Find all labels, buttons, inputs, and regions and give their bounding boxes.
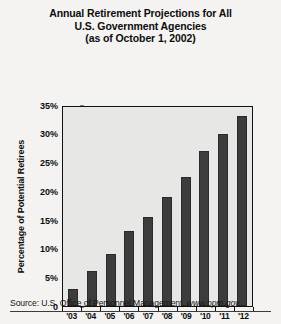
- bar-slot: [101, 107, 120, 306]
- bar-slot: [195, 107, 214, 306]
- chart-plot-region: Percentage of Potential Retirees 05%10%1…: [0, 49, 281, 324]
- x-axis-tick-label: '05: [100, 311, 119, 321]
- bar-09: [181, 177, 191, 306]
- source-url: www.opm.gov.: [187, 298, 241, 308]
- chart-figure: Annual Retirement Projections for All U.…: [0, 0, 281, 324]
- source-text: Source: U.S. Office of Personnel Managem…: [10, 298, 271, 308]
- chart-title-line-1: Annual Retirement Projections for All: [14, 7, 267, 20]
- y-axis-tick-labels: 05%10%15%20%25%30%35%: [22, 49, 58, 313]
- x-axis-tick-label: '10: [196, 311, 215, 321]
- source-prefix: Source: U.S. Office of Personnel Managem…: [10, 298, 187, 308]
- bar-08: [162, 197, 172, 306]
- bar-slot: [139, 107, 158, 306]
- bottom-divider: [10, 311, 271, 312]
- bar-slot: [158, 107, 177, 306]
- bar-12: [237, 116, 247, 306]
- x-axis-tick-label: '09: [177, 311, 196, 321]
- bar-10: [199, 151, 209, 306]
- bar-slot: [64, 107, 83, 306]
- y-axis-tick-label: 15%: [40, 216, 58, 226]
- y-axis-tick-label: 30%: [40, 129, 58, 139]
- bar-slot: [214, 107, 233, 306]
- bar-slot: [232, 107, 251, 306]
- source-note: Source: U.S. Office of Personnel Managem…: [0, 298, 281, 312]
- x-axis-tick-label: '06: [119, 311, 138, 321]
- bar-slot: [176, 107, 195, 306]
- chart-title: Annual Retirement Projections for All U.…: [0, 0, 281, 45]
- y-axis-tick-label: 25%: [40, 158, 58, 168]
- x-axis-tick-label: '08: [157, 311, 176, 321]
- bar-slot: [83, 107, 102, 306]
- y-axis-tick-label: 5%: [45, 273, 58, 283]
- bar-06: [124, 231, 134, 306]
- x-axis-tick-label: '07: [138, 311, 157, 321]
- x-axis-tick-label: '12: [234, 311, 253, 321]
- x-axis-tick-label: '11: [215, 311, 234, 321]
- chart-title-line-3: (as of October 1, 2002): [14, 32, 267, 45]
- y-axis-tick-label: 35%: [40, 101, 58, 111]
- x-axis-tick-label: '03: [62, 311, 81, 321]
- y-axis-tick-label: 10%: [40, 244, 58, 254]
- bar-11: [218, 134, 228, 306]
- plot-area: [62, 106, 253, 307]
- bar-07: [143, 217, 153, 306]
- y-axis-tick-label: 20%: [40, 187, 58, 197]
- x-axis-tick-labels: '03'04'05'06'07'08'09'10'11'12: [62, 311, 253, 321]
- chart-title-line-2: U.S. Government Agencies: [14, 20, 267, 33]
- bar-slot: [120, 107, 139, 306]
- bar-series: [63, 107, 252, 306]
- x-axis-tick-label: '04: [81, 311, 100, 321]
